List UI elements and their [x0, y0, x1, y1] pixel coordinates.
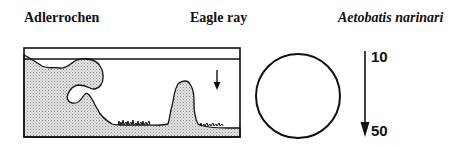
- diagram-canvas: 10 50: [0, 0, 460, 145]
- depth-arrow-head-icon: [361, 122, 370, 137]
- depth-range-arrow: 10 50: [361, 48, 388, 139]
- size-circle-icon: [256, 54, 340, 138]
- depth-top-label: 10: [371, 48, 388, 65]
- down-arrow-icon: [214, 70, 221, 90]
- depth-bottom-label: 50: [371, 122, 388, 139]
- habitat-scene: [24, 48, 240, 137]
